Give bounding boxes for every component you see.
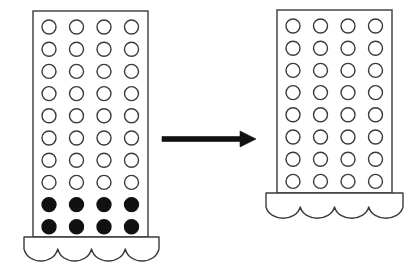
right-container-open-cell[interactable] (369, 174, 383, 188)
right-container-open-cell[interactable] (369, 130, 383, 144)
transfer-arrow (162, 131, 256, 147)
right-container-open-cell[interactable] (369, 19, 383, 33)
left-container-open-cell[interactable] (70, 64, 84, 78)
right-container-open-cell[interactable] (341, 19, 355, 33)
left-container-open-cell[interactable] (42, 42, 56, 56)
left-container-filled-cell[interactable] (42, 198, 56, 212)
left-container-open-cell[interactable] (42, 153, 56, 167)
left-container-filled-cell[interactable] (97, 220, 111, 234)
right-container-open-cell[interactable] (341, 63, 355, 77)
left-container-open-cell[interactable] (42, 20, 56, 34)
left-base (24, 237, 159, 261)
right-container-open-cell[interactable] (369, 108, 383, 122)
left-container-filled-cell[interactable] (125, 198, 139, 212)
left-container-open-cell[interactable] (125, 153, 139, 167)
diagram-canvas (0, 0, 420, 275)
right-container-open-cell[interactable] (341, 174, 355, 188)
right-container-open-cell[interactable] (286, 63, 300, 77)
diagram-svg (0, 0, 420, 275)
left-container-open-cell[interactable] (97, 64, 111, 78)
right-container-open-cell[interactable] (314, 41, 328, 55)
right-container-open-cell[interactable] (341, 152, 355, 166)
right-container-open-cell[interactable] (341, 86, 355, 100)
right-base (266, 193, 403, 218)
left-container-open-cell[interactable] (97, 42, 111, 56)
right-container-open-cell[interactable] (286, 108, 300, 122)
left-container-open-cell[interactable] (70, 87, 84, 101)
left-container-open-cell[interactable] (125, 131, 139, 145)
right-container-open-cell[interactable] (286, 130, 300, 144)
right-container-open-cell[interactable] (286, 86, 300, 100)
left-container-open-cell[interactable] (97, 20, 111, 34)
left-container-open-cell[interactable] (125, 20, 139, 34)
right-container-open-cell[interactable] (314, 152, 328, 166)
left-container-open-cell[interactable] (125, 42, 139, 56)
left-container-filled-cell[interactable] (70, 198, 84, 212)
left-container-open-cell[interactable] (70, 131, 84, 145)
right-container-open-cell[interactable] (369, 41, 383, 55)
left-container-open-cell[interactable] (70, 153, 84, 167)
left-container-filled-cell[interactable] (70, 220, 84, 234)
right-container-open-cell[interactable] (314, 19, 328, 33)
right-container-open-cell[interactable] (286, 41, 300, 55)
arrow-right-icon (162, 131, 256, 147)
left-container-filled-cell[interactable] (125, 220, 139, 234)
left-container-open-cell[interactable] (42, 131, 56, 145)
right-container-open-cell[interactable] (286, 152, 300, 166)
right-container-open-cell[interactable] (369, 63, 383, 77)
right-container-open-cell[interactable] (341, 108, 355, 122)
right-container-assembly[interactable] (266, 10, 403, 218)
left-container-filled-cell[interactable] (97, 198, 111, 212)
left-container-open-cell[interactable] (70, 42, 84, 56)
left-container-open-cell[interactable] (97, 87, 111, 101)
right-container-open-cell[interactable] (314, 63, 328, 77)
left-container-filled-cell[interactable] (42, 220, 56, 234)
right-container-open-cell[interactable] (314, 86, 328, 100)
left-container-open-cell[interactable] (125, 64, 139, 78)
left-container-open-cell[interactable] (70, 20, 84, 34)
right-container-open-cell[interactable] (314, 108, 328, 122)
right-container-open-cell[interactable] (286, 19, 300, 33)
left-container-open-cell[interactable] (42, 87, 56, 101)
left-container-assembly[interactable] (24, 11, 159, 261)
left-container-open-cell[interactable] (97, 153, 111, 167)
right-container-open-cell[interactable] (369, 152, 383, 166)
left-container-open-cell[interactable] (125, 87, 139, 101)
right-container-open-cell[interactable] (341, 41, 355, 55)
right-container-open-cell[interactable] (314, 130, 328, 144)
left-container-open-cell[interactable] (97, 175, 111, 189)
left-container-open-cell[interactable] (42, 64, 56, 78)
left-container-open-cell[interactable] (70, 109, 84, 123)
left-container-open-cell[interactable] (97, 131, 111, 145)
left-container-open-cell[interactable] (70, 175, 84, 189)
right-container-open-cell[interactable] (369, 86, 383, 100)
left-container-open-cell[interactable] (97, 109, 111, 123)
left-container-open-cell[interactable] (125, 109, 139, 123)
left-container-open-cell[interactable] (42, 109, 56, 123)
right-container-open-cell[interactable] (341, 130, 355, 144)
right-container-open-cell[interactable] (286, 174, 300, 188)
left-container-open-cell[interactable] (42, 175, 56, 189)
right-container-open-cell[interactable] (314, 174, 328, 188)
left-container-open-cell[interactable] (125, 175, 139, 189)
